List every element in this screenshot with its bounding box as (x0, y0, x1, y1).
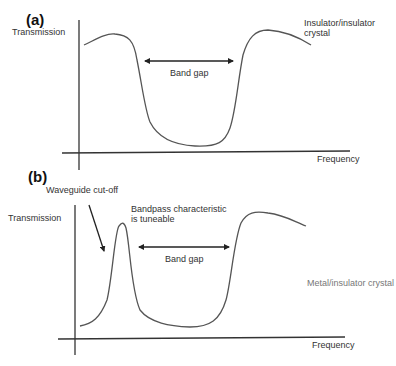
panel-a-x-axis-label: Frequency (317, 154, 360, 164)
diagram-canvas (0, 0, 396, 366)
panel-b-y-axis-label: Transmission (8, 213, 61, 223)
panel-b-axes (58, 205, 345, 355)
panel-a-band-gap-label: Band gap (170, 68, 209, 78)
panel-b-x-axis-label: Frequency (312, 340, 355, 350)
waveguide-cutoff-label: Waveguide cut-off (46, 185, 118, 195)
panel-a-crystal-label-line1: Insulator/insulator (304, 18, 375, 28)
bandpass-label-line2: is tuneable (131, 214, 227, 224)
panel-b-transmission-curve (80, 212, 306, 327)
panel-a-label: (a) (26, 11, 44, 28)
panel-b-band-gap-label: Band gap (165, 254, 204, 264)
panel-a-y-axis-label: Transmission (12, 27, 65, 37)
panel-b-crystal-label: Metal/insulator crystal (307, 278, 394, 288)
panel-a-crystal-label: Insulator/insulator crystal (304, 18, 375, 38)
bandpass-label-line1: Bandpass characteristic (131, 204, 227, 214)
panel-b-label: (b) (28, 168, 47, 185)
waveguide-cutoff-arrow (89, 205, 104, 251)
bandpass-label: Bandpass characteristic is tuneable (131, 204, 227, 224)
panel-a-crystal-label-line2: crystal (304, 28, 375, 38)
panel-a-transmission-curve (84, 30, 311, 146)
